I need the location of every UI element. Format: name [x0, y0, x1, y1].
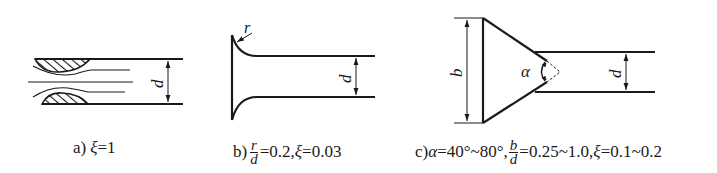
- fraction-denominator: d: [509, 153, 519, 166]
- separation-zone-top: [35, 59, 90, 72]
- caption-c-ratio-range: =0.25~1.0,: [519, 142, 593, 162]
- dimension-label-d: d: [148, 79, 167, 88]
- caption-c: c) α =40°~80°, b d =0.25~1.0, ξ =0.1~0.2: [415, 138, 662, 165]
- radius-label-r: r: [244, 19, 251, 36]
- cone-apex-dashed: [547, 61, 560, 82]
- caption-b-ratio-value: =0.2,: [260, 142, 295, 162]
- figure-c-conical-inlet: α b d: [447, 18, 655, 123]
- caption-b-xi: ξ: [295, 142, 302, 162]
- caption-a: a) ξ =1: [73, 138, 116, 158]
- caption-a-xi: ξ: [90, 138, 97, 158]
- caption-c-fraction: b d: [509, 139, 519, 166]
- caption-c-prefix: c): [415, 142, 428, 162]
- dimension-label-d: d: [606, 69, 625, 78]
- cone-side-top: [483, 18, 547, 61]
- rounded-wall-top: [232, 35, 375, 56]
- caption-a-prefix: a): [73, 138, 86, 158]
- dimension-label-d: d: [336, 74, 355, 83]
- streamline-lower: [33, 88, 125, 97]
- angle-label-alpha: α: [521, 62, 531, 81]
- separation-zone-bottom: [42, 93, 88, 104]
- caption-b: b) r d =0.2, ξ =0.03: [233, 138, 341, 165]
- caption-b-xi-value: =0.03: [302, 142, 341, 162]
- rounded-wall-bottom: [232, 97, 375, 120]
- cone-side-bottom: [483, 82, 547, 123]
- caption-a-value: =1: [98, 138, 116, 158]
- caption-c-xi: ξ: [593, 142, 600, 162]
- figure-b-rounded-inlet: r d: [232, 19, 375, 120]
- fraction-denominator: d: [249, 153, 259, 166]
- caption-b-fraction: r d: [249, 139, 259, 166]
- dimension-label-b: b: [447, 69, 466, 78]
- caption-b-prefix: b): [233, 142, 247, 162]
- figure-a-sharp-inlet: d: [28, 59, 183, 104]
- caption-c-xi-range: =0.1~0.2: [601, 142, 662, 162]
- caption-c-alpha: α: [428, 142, 437, 162]
- figure-panel: d r d: [0, 0, 717, 173]
- caption-c-alpha-range: =40°~80°,: [437, 142, 508, 162]
